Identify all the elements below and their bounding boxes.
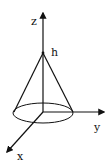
y-axis-label: y (93, 121, 101, 134)
x-axis (7, 112, 43, 152)
apex-label: h (51, 46, 58, 59)
apex-point (42, 52, 45, 55)
z-axis-label: z (31, 15, 37, 28)
cone-diagram: z h y x (0, 0, 111, 163)
x-axis-label: x (17, 150, 24, 163)
